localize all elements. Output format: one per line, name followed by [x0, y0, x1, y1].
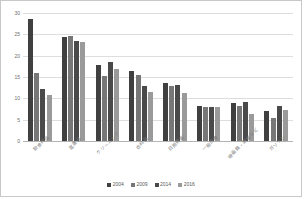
bar — [231, 103, 236, 141]
bar — [34, 73, 39, 141]
category-label-cell: 日用雑貨 — [158, 141, 192, 179]
legend-item[interactable]: 2004 — [107, 182, 124, 187]
legend-swatch-icon — [178, 183, 182, 187]
y-axis-tick-label: 0 — [17, 139, 20, 144]
category-label-cell: 飲食料品 — [23, 141, 57, 179]
category-label-cell: クリーニング — [91, 141, 125, 179]
bar — [136, 75, 141, 141]
chart-container: 302520151050 飲食料品医薬品クリーニング衣料品日用雑貨一般診療映画館… — [0, 0, 302, 197]
legend-label: 2014 — [160, 182, 171, 187]
bar — [74, 41, 79, 141]
bar — [129, 71, 134, 141]
bars-layer — [23, 13, 293, 141]
bar — [28, 19, 33, 141]
bar — [182, 93, 187, 141]
bar-group — [91, 13, 125, 141]
legend-label: 2009 — [136, 182, 147, 187]
y-axis-tick-label: 10 — [14, 96, 20, 101]
category-label-cell: 一般診療 — [192, 141, 226, 179]
legend-swatch-icon — [131, 183, 135, 187]
bar — [40, 89, 45, 141]
chart-legend: 2004200920142016 — [1, 182, 301, 187]
bar-group — [124, 13, 158, 141]
plot-area: 302520151050 — [23, 13, 293, 141]
bar — [68, 36, 73, 141]
y-axis-tick-label: 5 — [17, 117, 20, 122]
bar-group — [192, 13, 226, 141]
category-label-cell: 衣料品 — [124, 141, 158, 179]
category-label-cell: 映画館・劇場など — [226, 141, 260, 179]
bar — [102, 76, 107, 141]
bar — [142, 86, 147, 141]
legend-item[interactable]: 2014 — [155, 182, 172, 187]
bar — [271, 118, 276, 141]
bar — [264, 111, 269, 141]
y-axis-tick-label: 25 — [14, 32, 20, 37]
bar — [62, 37, 67, 141]
category-axis-labels: 飲食料品医薬品クリーニング衣料品日用雑貨一般診療映画館・劇場などガソリン — [23, 141, 293, 179]
legend-item[interactable]: 2016 — [178, 182, 195, 187]
bar-group — [158, 13, 192, 141]
bar-group — [259, 13, 293, 141]
bar — [163, 83, 168, 141]
legend-label: 2004 — [113, 182, 124, 187]
bar-group — [23, 13, 57, 141]
bar-group — [226, 13, 260, 141]
legend-swatch-icon — [155, 183, 159, 187]
bar — [175, 85, 180, 141]
bar — [197, 106, 202, 141]
legend-swatch-icon — [107, 183, 111, 187]
y-axis-tick-label: 15 — [14, 75, 20, 80]
bar — [237, 106, 242, 141]
legend-label: 2016 — [184, 182, 195, 187]
category-label-cell: ガソリン — [259, 141, 293, 179]
legend-item[interactable]: 2009 — [131, 182, 148, 187]
bar — [80, 42, 85, 141]
bar-group — [57, 13, 91, 141]
bar — [96, 65, 101, 141]
bar — [148, 92, 153, 141]
bar — [108, 62, 113, 141]
bar — [169, 86, 174, 141]
y-axis-tick-label: 20 — [14, 53, 20, 58]
category-label-cell: 医薬品 — [57, 141, 91, 179]
bar — [203, 107, 208, 141]
y-axis-tick-label: 30 — [14, 11, 20, 16]
